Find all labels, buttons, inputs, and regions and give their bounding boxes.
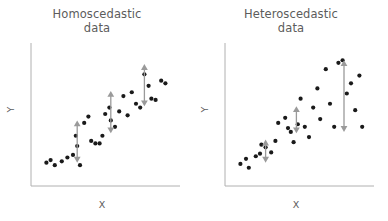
data-point — [353, 108, 357, 112]
data-point — [103, 112, 107, 116]
data-point — [147, 84, 151, 88]
data-point — [283, 116, 287, 120]
data-point — [238, 162, 242, 166]
axes-heteroscedastic — [225, 43, 374, 186]
data-point — [44, 161, 48, 165]
data-point — [311, 106, 315, 110]
data-point — [86, 114, 90, 118]
data-point — [130, 90, 134, 94]
panel-heteroscedastic: Heteroscedastic data X Y — [194, 0, 388, 221]
data-point — [159, 79, 163, 83]
spread-arrow — [262, 140, 269, 163]
data-point — [324, 67, 328, 71]
scatter-plot-heteroscedastic — [194, 0, 388, 221]
data-point — [93, 141, 97, 145]
data-point — [286, 126, 290, 130]
x-axis-label-homoscedastic: X — [72, 199, 132, 210]
data-point — [292, 140, 296, 144]
data-point — [53, 163, 57, 167]
data-point — [247, 166, 251, 170]
data-point — [60, 159, 64, 163]
arrow-head-down — [74, 157, 81, 163]
data-point — [349, 81, 353, 85]
data-point — [328, 102, 332, 106]
arrow-head-down — [262, 157, 269, 163]
data-point — [357, 74, 361, 78]
data-point — [336, 61, 340, 65]
data-point — [303, 125, 307, 129]
data-point — [121, 94, 125, 98]
y-axis-label-heteroscedastic: Y — [199, 98, 210, 122]
data-point — [163, 81, 167, 85]
data-point — [126, 113, 130, 117]
data-points-homoscedastic — [44, 72, 167, 167]
data-point — [360, 125, 364, 129]
scatter-plot-homoscedastic — [0, 0, 194, 221]
data-point — [258, 152, 262, 156]
data-point — [71, 153, 75, 157]
data-point — [138, 106, 142, 110]
data-point — [244, 157, 248, 161]
data-point — [345, 91, 349, 95]
data-point — [100, 134, 104, 138]
panel-homoscedastic: Homoscedastic data X Y — [0, 0, 194, 221]
data-point — [149, 97, 153, 101]
spread-arrows-homoscedastic — [74, 64, 148, 163]
x-axis-label-heteroscedastic: X — [266, 199, 326, 210]
data-point — [89, 139, 93, 143]
spread-arrow — [293, 106, 300, 133]
data-point — [65, 155, 69, 159]
data-point — [254, 154, 258, 158]
spread-arrow — [341, 60, 348, 132]
data-point — [332, 125, 336, 129]
data-point — [289, 130, 293, 134]
data-point — [318, 117, 322, 121]
data-point — [154, 98, 158, 102]
arrow-head-up — [141, 64, 148, 70]
data-point — [98, 141, 102, 145]
arrow-head-up — [74, 120, 81, 126]
data-points-heteroscedastic — [238, 58, 364, 170]
arrow-head-down — [341, 126, 348, 132]
data-point — [49, 158, 53, 162]
arrow-head-up — [262, 140, 269, 146]
data-point — [117, 109, 121, 113]
data-point — [273, 139, 277, 143]
arrow-head-down — [107, 127, 114, 133]
y-axis-label-homoscedastic: Y — [5, 98, 16, 122]
arrow-head-down — [293, 127, 300, 133]
data-point — [134, 102, 138, 106]
spread-arrow — [74, 120, 81, 162]
data-point — [78, 163, 82, 167]
arrow-head-down — [141, 101, 148, 107]
arrow-head-up — [293, 106, 300, 112]
data-point — [299, 97, 303, 101]
arrow-head-up — [107, 91, 114, 97]
data-point — [269, 150, 273, 154]
data-point — [82, 121, 86, 125]
data-point — [315, 86, 319, 90]
data-point — [276, 121, 280, 125]
data-point — [307, 135, 311, 139]
spread-arrows-heteroscedastic — [262, 60, 347, 162]
